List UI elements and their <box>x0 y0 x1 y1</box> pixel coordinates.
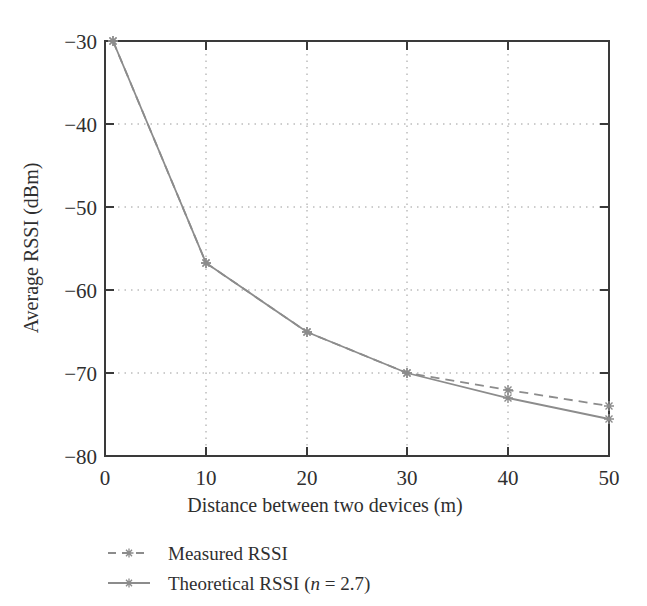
marker-star <box>302 327 312 337</box>
legend-label-measured-rssi: Measured RSSI <box>168 543 288 564</box>
marker-star <box>503 393 513 403</box>
legend-label-suffix: = 2.7) <box>320 573 370 595</box>
x-axis-title: Distance between two devices (m) <box>187 494 462 517</box>
legend-label-prefix: Theoretical RSSI ( <box>168 573 310 595</box>
rssi-distance-figure: −30 −40 −50 −60 −70 −80 0 10 20 30 40 50… <box>0 0 647 606</box>
x-tick-label: 40 <box>498 466 519 490</box>
marker-star <box>402 368 412 378</box>
marker-star <box>604 401 614 411</box>
y-tick-label: −70 <box>64 362 97 386</box>
y-tick-label: −50 <box>64 196 97 220</box>
marker-star <box>201 258 211 268</box>
series-theoretical-rssi <box>108 36 614 424</box>
series-theoretical-rssi-line <box>113 41 609 419</box>
axis-ticks <box>105 41 609 456</box>
x-tick-label: 10 <box>196 466 217 490</box>
chart-canvas: −30 −40 −50 −60 −70 −80 0 10 20 30 40 50… <box>0 0 647 606</box>
grid-lines <box>105 41 609 456</box>
y-axis-tick-labels: −30 −40 −50 −60 −70 −80 <box>64 30 97 469</box>
x-tick-label: 50 <box>599 466 620 490</box>
y-tick-label: −80 <box>64 445 97 469</box>
series-theoretical-rssi-markers <box>108 36 614 424</box>
plot-frame <box>105 41 609 456</box>
marker-star <box>108 36 118 46</box>
x-axis-tick-labels: 0 10 20 30 40 50 <box>100 466 620 490</box>
y-tick-label: −60 <box>64 279 97 303</box>
y-tick-label: −30 <box>64 30 97 54</box>
x-tick-label: 0 <box>100 466 111 490</box>
legend: Measured RSSI Theoretical RSSI (n = 2.7) <box>108 543 370 595</box>
legend-item-measured-rssi[interactable]: Measured RSSI <box>108 543 288 564</box>
legend-item-theoretical-rssi[interactable]: Theoretical RSSI (n = 2.7) <box>108 573 370 595</box>
x-tick-label: 30 <box>397 466 418 490</box>
x-tick-label: 20 <box>297 466 318 490</box>
legend-label-italic-n: n <box>310 573 320 594</box>
series-measured-rssi-line <box>113 41 609 406</box>
legend-label-theoretical-rssi: Theoretical RSSI (n = 2.7) <box>168 573 370 595</box>
y-tick-label: −40 <box>64 113 97 137</box>
marker-star <box>604 414 614 424</box>
legend-marker-star <box>125 579 134 588</box>
legend-marker-star <box>125 549 134 558</box>
y-axis-title: Average RSSI (dBm) <box>20 163 43 334</box>
